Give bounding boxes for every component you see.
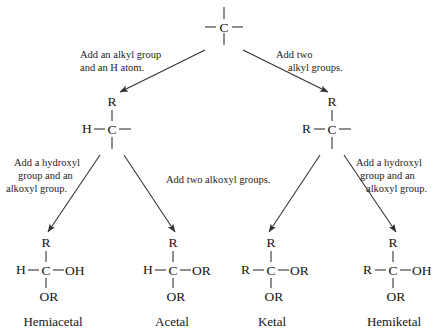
annotation-right-top-line2: alkyl groups. xyxy=(288,62,343,73)
annotation-far-right-line3: alkoxyl group. xyxy=(366,183,427,194)
annotation-far-left: Add a hydroxyl group and an alkoxyl grou… xyxy=(6,157,80,194)
atom-acetal-right: OR xyxy=(192,263,211,278)
atom-hemiacetal-top: R xyxy=(41,235,50,250)
node-alkyl-h-carbon: R H C xyxy=(82,94,131,149)
atom-acetal-center: C xyxy=(168,263,177,278)
atom-hemiacetal-bottom: OR xyxy=(40,289,59,304)
node-carbon-root: C xyxy=(205,7,243,45)
atom-hemiacetal-center: C xyxy=(41,263,50,278)
atom-ketal-center: C xyxy=(266,263,275,278)
annotation-left-top-line2: and an H atom. xyxy=(80,62,144,73)
atom-hemiacetal-left: H xyxy=(16,262,26,277)
atom-acetal-top: R xyxy=(168,235,177,250)
caption-hemiketal: Hemiketal xyxy=(367,314,422,329)
arrow-to-acetal xyxy=(124,155,175,232)
node-acetal: R H C OR OR Acetal xyxy=(143,235,211,329)
atom-hemiketal-bottom: OR xyxy=(387,289,406,304)
atom-hemiketal-top: R xyxy=(388,235,397,250)
annotation-right-top: Add two alkyl groups. xyxy=(276,49,343,73)
atom-acetal-left: H xyxy=(143,262,153,277)
caption-ketal: Ketal xyxy=(258,314,287,329)
atom-acetal-bottom: OR xyxy=(167,289,186,304)
atom-ketone-left: R xyxy=(302,121,311,136)
atom-ketal-left: R xyxy=(241,262,250,277)
chemistry-flow-diagram: C Add an alkyl group and an H atom. Add … xyxy=(0,0,441,335)
diagram-root: C Add an alkyl group and an H atom. Add … xyxy=(0,0,441,335)
atom-hemiketal-right: OH xyxy=(412,263,432,278)
arrow-to-ketal xyxy=(269,155,320,232)
annotation-far-left-line1: Add a hydroxyl xyxy=(14,157,80,168)
annotation-middle: Add two alkoxyl groups. xyxy=(166,174,270,185)
node-hemiacetal: R H C OH OR Hemiacetal xyxy=(16,235,85,329)
atom-hemiketal-center: C xyxy=(388,263,397,278)
caption-hemiacetal: Hemiacetal xyxy=(23,314,83,329)
atom-ketone-top: R xyxy=(327,94,336,109)
atom-ketone-center: C xyxy=(327,122,336,137)
atom-aldehyde-left: H xyxy=(82,121,92,136)
annotation-left-top-line1: Add an alkyl group xyxy=(80,49,161,60)
atom-ketal-bottom: OR xyxy=(265,289,284,304)
node-dialkyl-carbon: R R C xyxy=(302,94,351,149)
annotation-far-right: Add a hydroxyl group and an alkoxyl grou… xyxy=(356,157,427,194)
annotation-far-right-line2: group and an xyxy=(360,170,416,181)
atom-hemiketal-left: R xyxy=(363,262,372,277)
annotation-left-top: Add an alkyl group and an H atom. xyxy=(80,49,161,73)
annotation-far-right-line1: Add a hydroxyl xyxy=(356,157,422,168)
atom-ketal-top: R xyxy=(266,235,275,250)
atom-aldehyde-top: R xyxy=(107,94,116,109)
atom-root-center: C xyxy=(219,20,228,35)
node-ketal: R R C OR OR Ketal xyxy=(241,235,309,329)
node-hemiketal: R R C OH OR Hemiketal xyxy=(363,235,432,329)
annotation-far-left-line2: group and an xyxy=(18,170,74,181)
atom-aldehyde-center: C xyxy=(107,122,116,137)
annotation-far-left-line3: alkoxyl group. xyxy=(6,183,67,194)
annotation-right-top-line1: Add two xyxy=(276,49,312,60)
caption-acetal: Acetal xyxy=(155,314,189,329)
atom-ketal-right: OR xyxy=(290,263,309,278)
atom-hemiacetal-right: OH xyxy=(65,263,85,278)
annotation-middle-line1: Add two alkoxyl groups. xyxy=(166,174,270,185)
